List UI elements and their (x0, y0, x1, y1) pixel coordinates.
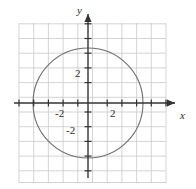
x-axis-label: x (180, 110, 185, 121)
y-tick-label-2: 2 (75, 68, 81, 79)
plot-canvas (0, 0, 196, 189)
graph-figure: y x 2 -2 -2 2 (0, 0, 196, 189)
y-tick-label-negative-2: -2 (66, 125, 75, 136)
x-tick-label-negative-2: -2 (55, 108, 64, 119)
y-axis-label: y (77, 5, 82, 16)
x-tick-label-2: 2 (110, 108, 116, 119)
